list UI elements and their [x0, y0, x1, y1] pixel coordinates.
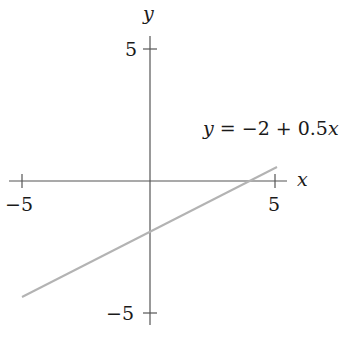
equation-x: x — [328, 117, 339, 139]
x-tick-label-neg: −5 — [5, 193, 33, 215]
equation-body: = −2 + 0.5 — [214, 117, 328, 139]
equation-y: y — [202, 117, 214, 139]
y-tick-label-pos: 5 — [125, 38, 137, 60]
y-tick-label-neg: −5 — [106, 302, 134, 324]
y-axis-label: y — [142, 2, 154, 24]
chart: −5 5 5 −5 x y y = −2 + 0.5x — [0, 0, 359, 339]
equation-annotation: y = −2 + 0.5x — [202, 117, 339, 139]
x-tick-label-pos: 5 — [268, 193, 280, 215]
x-axis-label: x — [297, 168, 308, 190]
